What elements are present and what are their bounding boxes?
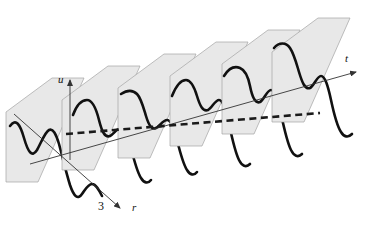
space-time-slices-figure: r t u 3 [0,0,383,246]
r-axis-label: r [132,201,137,213]
u-axis-label: u [58,73,64,85]
slice-number-label: 3 [98,199,104,213]
t-axis-label: t [345,52,349,64]
